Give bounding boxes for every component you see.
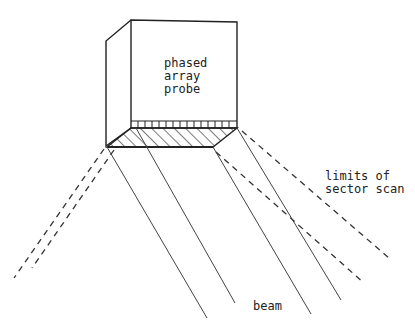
probe-side-face bbox=[106, 20, 131, 146]
beam-label: beam bbox=[253, 300, 282, 313]
sector-scan-label-line-2: sector scan bbox=[325, 183, 404, 196]
sector-scan-label: limits ofsector scan bbox=[325, 170, 404, 196]
probe-label: phasedarrayprobe bbox=[164, 57, 207, 96]
phased-array-diagram bbox=[0, 0, 415, 331]
beam-lines bbox=[107, 128, 341, 318]
sector-scan-limits bbox=[14, 131, 389, 283]
probe-label-line-3: probe bbox=[164, 83, 207, 96]
